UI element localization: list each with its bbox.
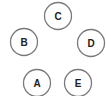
node-e-label: E — [75, 78, 82, 89]
node-c: C — [45, 3, 72, 30]
node-diagram: C B D A E — [0, 0, 106, 96]
node-d-label: D — [87, 38, 94, 49]
node-b-label: B — [20, 37, 27, 48]
diagram-canvas: C B D A E — [0, 0, 106, 96]
node-b: B — [11, 29, 38, 56]
node-a: A — [24, 70, 51, 97]
node-a-label: A — [33, 78, 40, 89]
node-e: E — [65, 70, 92, 97]
node-d: D — [78, 30, 105, 57]
node-c-label: C — [54, 11, 61, 22]
